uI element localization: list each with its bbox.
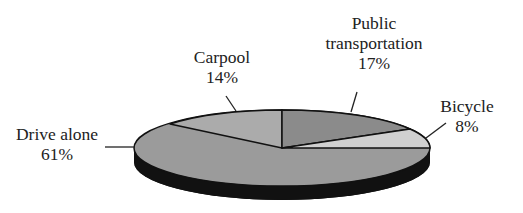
leader-bicycle [426,123,446,138]
label-public-transportation: Public transportation 17% [325,13,422,73]
svg-text:17%: 17% [358,53,390,73]
svg-text:transportation: transportation [325,33,422,53]
label-drive-alone: Drive alone 61% [16,124,98,164]
svg-text:61%: 61% [41,144,73,164]
svg-text:Public: Public [352,13,397,33]
svg-text:Carpool: Carpool [194,47,251,67]
svg-text:Drive alone: Drive alone [16,124,98,144]
leader-public [351,92,357,112]
svg-text:8%: 8% [455,116,478,136]
label-carpool: Carpool 14% [194,47,251,87]
leader-carpool [226,96,236,111]
pie-chart: Carpool 14% Public transportation 17% Bi… [0,0,523,213]
svg-text:Bicycle: Bicycle [440,96,494,116]
label-bicycle: Bicycle 8% [440,96,494,136]
svg-text:14%: 14% [206,67,238,87]
